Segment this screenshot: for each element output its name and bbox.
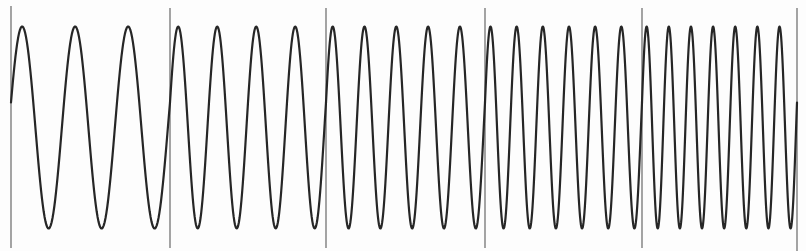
wave-segment-2 xyxy=(170,27,326,229)
waveform-segments xyxy=(11,27,797,229)
wave-segment-3 xyxy=(326,27,485,229)
wave-segment-4 xyxy=(485,27,642,229)
wave-segment-1 xyxy=(11,27,170,229)
waveform-chart xyxy=(0,0,806,251)
wave-segment-5 xyxy=(642,27,797,229)
